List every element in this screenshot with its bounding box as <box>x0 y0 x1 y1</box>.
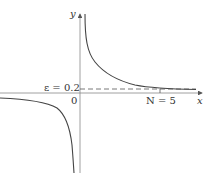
curve-upper-branch <box>85 14 196 90</box>
y-axis-label: y <box>69 8 76 19</box>
n-label: N = 5 <box>146 95 176 106</box>
origin-label: 0 <box>71 95 77 106</box>
x-axis-label: x <box>197 95 203 106</box>
epsilon-limit-diagram: y x 0 ε = 0.2 N = 5 <box>0 0 205 173</box>
curve-lower-branch <box>0 98 74 173</box>
epsilon-label: ε = 0.2 <box>44 82 80 93</box>
